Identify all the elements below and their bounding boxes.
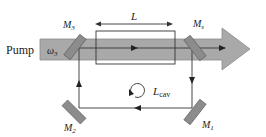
arrow-head-icon [129, 89, 134, 96]
ring-cavity-diagram: L Pump ω3 M3 Ms M2 M1 Lcav [0, 0, 266, 137]
circulation-arrow-icon [131, 83, 145, 97]
cavity-length-label: Lcav [152, 85, 170, 99]
arrow-down-icon [189, 77, 195, 84]
pump-label: Pump [6, 43, 34, 57]
mirror-m2-label: M2 [63, 122, 76, 135]
mirror-ms-label: Ms [192, 18, 204, 31]
arrow-left-icon [95, 22, 101, 27]
mirror-m2 [62, 100, 86, 124]
arrow-up-icon [76, 80, 82, 87]
arrow-right-icon [167, 22, 173, 27]
crystal-length-label: L [130, 10, 137, 22]
arrow-left-icon [134, 105, 141, 111]
mirror-m3-label: M3 [62, 19, 75, 32]
mirror-m1-label: M1 [201, 119, 214, 132]
